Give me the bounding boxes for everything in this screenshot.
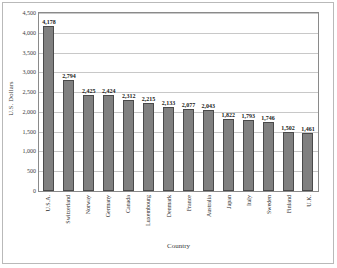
x-axis-label-slot: Denmark: [158, 193, 178, 241]
x-axis-category-label: Germany: [105, 195, 111, 217]
x-axis-category-label: Norway: [85, 195, 91, 214]
bar-value-label: 2,043: [202, 103, 216, 109]
bar-slot: 2,077: [178, 13, 198, 191]
bar-value-label: 4,178: [42, 19, 56, 25]
bar-slot: 2,794: [59, 13, 79, 191]
x-axis-category-label: Japan: [226, 195, 232, 209]
y-axis-title-text: U.S. Dollars: [7, 81, 14, 116]
x-axis-category-label: France: [186, 195, 192, 211]
bar-value-label: 2,794: [62, 73, 76, 79]
x-axis-category-label: Italy: [246, 195, 252, 206]
y-axis-tick-label: 1,000: [23, 148, 37, 154]
x-axis-category-label: Luxembourg: [145, 195, 151, 226]
bar-slot: 2,312: [119, 13, 139, 191]
bar-slot: 1,822: [218, 13, 238, 191]
bars-layer: 4,1782,7942,4252,4242,3122,2152,1332,077…: [39, 13, 318, 191]
x-axis-label-slot: France: [179, 193, 199, 241]
x-axis-label-slot: U.S.A.: [38, 193, 58, 241]
bar-value-label: 1,502: [281, 125, 295, 131]
y-axis-tick-label: 500: [27, 168, 36, 174]
bar[interactable]: [163, 107, 174, 191]
bar-value-label: 1,822: [222, 112, 236, 118]
x-axis-category-label: U.K.: [306, 195, 312, 207]
bar-value-label: 1,793: [241, 113, 255, 119]
bar-slot: 2,424: [99, 13, 119, 191]
bar-slot: 1,502: [278, 13, 298, 191]
x-axis-label-slot: Japan: [219, 193, 239, 241]
bar-value-label: 2,133: [162, 100, 176, 106]
bar-value-label: 2,424: [102, 88, 116, 94]
x-axis-category-label: Australia: [206, 195, 212, 217]
bar[interactable]: [243, 120, 254, 191]
y-axis-tick-label: 1,500: [23, 129, 37, 135]
y-axis-tick-labels: 05001,0001,5002,0002,5003,0003,5004,0004…: [16, 12, 38, 192]
x-axis-category-label: Canada: [125, 195, 131, 213]
bar[interactable]: [143, 103, 154, 191]
bar-slot: 2,133: [159, 13, 179, 191]
y-axis-tick-label: 4,000: [23, 30, 37, 36]
y-axis-tick-label: 2,000: [23, 109, 37, 115]
x-axis-category-label: Switzerland: [65, 195, 71, 224]
y-axis-tick-label: 3,500: [23, 50, 37, 56]
bar-slot: 1,793: [238, 13, 258, 191]
bar[interactable]: [123, 100, 134, 191]
bar-value-label: 1,461: [301, 126, 315, 132]
y-axis-tick-label: 0: [33, 188, 36, 194]
bar[interactable]: [302, 133, 313, 191]
bar-value-label: 2,312: [122, 93, 136, 99]
y-axis-tick-label: 3,000: [23, 69, 37, 75]
x-axis-label-slot: Italy: [239, 193, 259, 241]
bar[interactable]: [263, 122, 274, 191]
bar[interactable]: [223, 119, 234, 191]
bar-value-label: 2,215: [142, 96, 156, 102]
x-axis-label-slot: Switzerland: [58, 193, 78, 241]
x-axis-category-label: Sweden: [266, 195, 272, 214]
bar[interactable]: [283, 132, 294, 191]
bar[interactable]: [103, 95, 114, 191]
bar-slot: 1,746: [258, 13, 278, 191]
bar[interactable]: [83, 95, 94, 191]
x-axis-label-slot: Luxembourg: [138, 193, 158, 241]
bar-value-label: 2,077: [182, 102, 196, 108]
x-axis-label-slot: Australia: [199, 193, 219, 241]
bar-slot: 2,215: [139, 13, 159, 191]
x-axis-category-labels: U.S.A.SwitzerlandNorwayGermanyCanadaLuxe…: [38, 193, 319, 241]
bar[interactable]: [43, 26, 54, 191]
y-axis-tick-label: 2,500: [23, 89, 37, 95]
chart-container: U.S. Dollars 05001,0001,5002,0002,5003,0…: [0, 0, 337, 268]
x-axis-category-label: Denmark: [166, 195, 172, 217]
bar[interactable]: [183, 109, 194, 191]
x-axis-label-slot: Germany: [98, 193, 118, 241]
y-axis-tick-label: 4,500: [23, 10, 37, 16]
plot-area: 4,1782,7942,4252,4242,3122,2152,1332,077…: [38, 12, 319, 192]
bar-slot: 4,178: [39, 13, 59, 191]
bar-slot: 2,425: [79, 13, 99, 191]
bar[interactable]: [63, 80, 74, 191]
x-axis-label-slot: Sweden: [259, 193, 279, 241]
x-axis-category-label: Finland: [286, 195, 292, 213]
x-axis-label-slot: Norway: [78, 193, 98, 241]
bar-slot: 2,043: [198, 13, 218, 191]
bar-value-label: 2,425: [82, 88, 96, 94]
bar[interactable]: [203, 110, 214, 191]
x-axis-label-slot: Canada: [118, 193, 138, 241]
x-axis-title: Country: [38, 242, 319, 250]
bar-value-label: 1,746: [261, 115, 275, 121]
x-axis-label-slot: Finland: [279, 193, 299, 241]
x-axis-label-slot: U.K.: [299, 193, 319, 241]
bar-slot: 1,461: [298, 13, 318, 191]
x-axis-category-label: U.S.A.: [45, 195, 51, 212]
